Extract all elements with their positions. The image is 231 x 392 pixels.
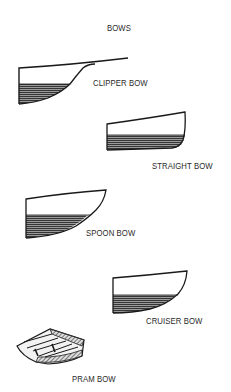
bows-diagram (0, 0, 231, 392)
straight-bow-label: STRAIGHT BOW (152, 161, 213, 171)
spoon-bow-label: SPOON BOW (86, 228, 135, 238)
cruiser-bow-hull (113, 271, 187, 313)
diagram-title: BOWS (107, 23, 131, 33)
clipper-bow-label: CLIPPER BOW (93, 78, 148, 88)
pram-bow-label: PRAM BOW (72, 374, 116, 384)
cruiser-bow-label: CRUISER BOW (146, 316, 202, 326)
straight-bow-hull (107, 112, 185, 150)
pram-bow-boat (17, 329, 84, 364)
